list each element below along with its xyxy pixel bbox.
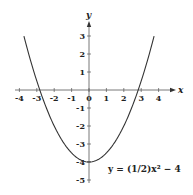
x-tick-label: -4 [15, 93, 24, 103]
y-axis-label: y [85, 10, 92, 20]
y-axis-arrow-icon [87, 21, 91, 27]
x-tick-label: -2 [50, 93, 59, 103]
x-axis-arrow-icon [170, 88, 176, 92]
x-tick-label: -3 [32, 93, 41, 103]
y-tick-label: -3 [76, 139, 85, 149]
y-tick-label: -1 [76, 103, 85, 113]
y-tick-label: -2 [76, 121, 85, 131]
x-tick-label: 4 [156, 93, 162, 103]
x-tick-label: 1 [104, 93, 110, 103]
x-axis-label: x [177, 85, 184, 95]
x-tick-label: -1 [67, 93, 76, 103]
y-tick-label: 1 [79, 67, 85, 77]
y-tick-label: 3 [79, 31, 85, 41]
equation-annotation: y = (1/2)x² − 4 [107, 164, 181, 174]
x-tick-label: 3 [138, 93, 144, 103]
parabola-chart: -4-3-2-101234321-1-2-3-4-5 x y y = (1/2)… [0, 0, 193, 195]
x-tick-label: 2 [121, 93, 127, 103]
x-tick-label: 0 [86, 93, 92, 103]
y-tick-label: -5 [76, 175, 85, 185]
y-tick-label: 2 [79, 49, 85, 59]
